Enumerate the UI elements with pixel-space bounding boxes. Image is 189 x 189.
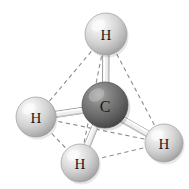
atom-hydrogen-right: H	[145, 124, 185, 165]
methane-molecule-figure: H C	[0, 0, 189, 189]
molecule-canvas: H C	[0, 0, 189, 189]
atom-hydrogen-top: H	[85, 13, 129, 58]
atom-hydrogen-bottom: H	[61, 144, 101, 185]
atom-hydrogen-left: H	[16, 97, 58, 140]
atom-carbon-center: C	[82, 82, 130, 131]
